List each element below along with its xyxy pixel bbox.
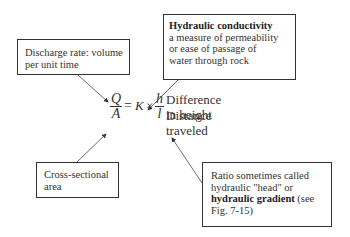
distance-traveled-label: Distance traveled bbox=[166, 108, 211, 138]
arrow-discharge-to-q bbox=[78, 75, 108, 102]
area-line-2: area bbox=[44, 181, 118, 193]
equals-sign: = bbox=[124, 98, 132, 113]
ratio-line-3: hydraulic gradient (see bbox=[211, 193, 331, 205]
discharge-line-2: per unit time bbox=[25, 59, 129, 71]
hydraulic-gradient-box: Ratio sometimes called hydraulic "head" … bbox=[202, 162, 332, 227]
discharge-rate-box: Discharge rate: volume per unit time bbox=[17, 39, 130, 75]
ratio-line-1: Ratio sometimes called bbox=[211, 170, 331, 182]
conductivity-line-1: a measure of permeability bbox=[169, 32, 295, 44]
times-sign: × bbox=[146, 98, 153, 113]
conductivity-line-3: water through rock bbox=[169, 55, 295, 67]
arrow-ratio-to-hl bbox=[172, 138, 202, 183]
height-h: h bbox=[155, 92, 164, 107]
conductivity-k: K bbox=[135, 98, 144, 113]
lhs-fraction: Q A bbox=[110, 92, 122, 121]
conductivity-line-2: or ease of passage of bbox=[169, 43, 295, 55]
cross-sectional-area-box: Cross-sectional area bbox=[36, 162, 119, 198]
area-a: A bbox=[112, 107, 121, 121]
rhs-fraction: h l bbox=[155, 92, 164, 121]
hydraulic-conductivity-box: Hydraulic conductivity a measure of perm… bbox=[163, 14, 296, 80]
arrow-area-to-a bbox=[77, 134, 106, 162]
conductivity-title: Hydraulic conductivity bbox=[169, 20, 295, 32]
area-line-1: Cross-sectional bbox=[44, 169, 118, 181]
hydraulic-gradient-term: hydraulic gradient bbox=[211, 193, 295, 204]
ratio-line-4: Fig. 7-15) bbox=[211, 205, 331, 217]
length-l: l bbox=[158, 107, 162, 121]
ratio-line-2: hydraulic "head" or bbox=[211, 182, 331, 194]
ratio-line-3-tail: (see bbox=[295, 193, 315, 204]
discharge-q: Q bbox=[110, 92, 122, 107]
discharge-line-1: Discharge rate: volume bbox=[25, 47, 129, 59]
